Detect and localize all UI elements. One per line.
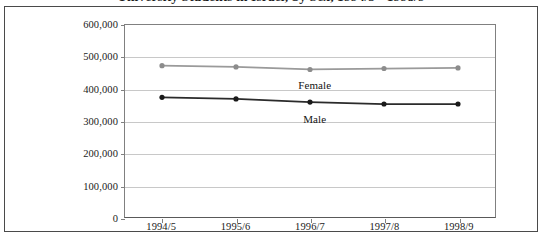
gridline	[125, 57, 495, 58]
chart-screenshot: University Students in Israel, by Sex, 1…	[0, 0, 542, 244]
y-tickmark	[121, 122, 125, 123]
data-point	[233, 96, 238, 101]
y-tickmark	[121, 187, 125, 188]
y-tick-label: 100,000	[26, 180, 118, 191]
data-point	[307, 67, 312, 72]
x-tick-label: 1998/9	[419, 221, 499, 232]
y-tickmark	[121, 90, 125, 91]
data-point	[381, 101, 386, 106]
gridline	[125, 187, 495, 188]
series-label-female: Female	[298, 79, 331, 91]
x-axis: 1994/51995/61996/71997/81998/9	[124, 221, 496, 241]
data-point	[233, 64, 238, 69]
x-tick-label: 1997/8	[344, 221, 424, 232]
y-tick-label: 200,000	[26, 148, 118, 159]
y-axis: 0100,000200,000300,000400,000500,000600,…	[22, 24, 118, 218]
data-point	[159, 95, 164, 100]
data-point	[455, 65, 460, 70]
y-tick-label: 600,000	[26, 19, 118, 30]
data-point	[381, 66, 386, 71]
series-label-male: Male	[303, 113, 326, 125]
chart-frame: 0100,000200,000300,000400,000500,000600,…	[4, 6, 538, 232]
x-tick-label: 1995/6	[196, 221, 276, 232]
x-tick-label: 1996/7	[270, 221, 350, 232]
data-point	[455, 101, 460, 106]
plot-area: FemaleMale	[124, 24, 496, 218]
y-tickmark	[121, 57, 125, 58]
gridline	[125, 154, 495, 155]
data-point	[159, 63, 164, 68]
y-tick-label: 300,000	[26, 116, 118, 127]
data-point	[307, 100, 312, 105]
y-tickmark	[121, 154, 125, 155]
y-tick-label: 500,000	[26, 51, 118, 62]
y-tick-label: 0	[26, 213, 118, 224]
y-tick-label: 400,000	[26, 83, 118, 94]
chart-title: University Students in Israel, by Sex, 1…	[0, 0, 542, 5]
y-tickmark	[121, 219, 125, 220]
y-tickmark	[121, 25, 125, 26]
x-tick-label: 1994/5	[121, 221, 201, 232]
